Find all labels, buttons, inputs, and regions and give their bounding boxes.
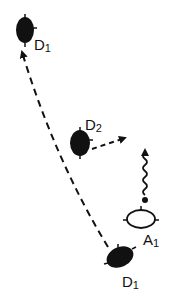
- a1-signal-wavy-arrow: [143, 150, 147, 195]
- migration-arrow: [22, 52, 108, 247]
- cell-filled-ellipse: [16, 17, 34, 43]
- d2-outgoing-arrow: [92, 138, 125, 149]
- label-d2: D2: [85, 116, 102, 134]
- label-d1-top: D1: [34, 36, 51, 54]
- diagram-canvas: D1 D2 A1 D1: [0, 0, 174, 297]
- node-a1: A1: [123, 206, 159, 249]
- cell-filled-ellipse: [70, 130, 90, 156]
- node-d1-top: D1: [16, 14, 51, 54]
- signal-dot: [142, 197, 148, 203]
- label-d1-bottom: D1: [122, 273, 139, 291]
- node-d2: D2: [70, 116, 102, 159]
- node-d1-bottom: D1: [103, 242, 139, 291]
- label-a1: A1: [143, 231, 159, 249]
- cell-open-ellipse: [127, 210, 155, 228]
